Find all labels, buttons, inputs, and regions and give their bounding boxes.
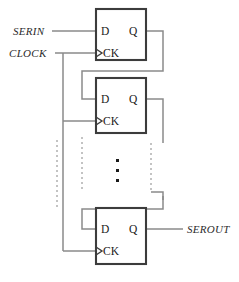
- ff2-ck-pin-label: CK: [103, 115, 120, 127]
- ff1-q-pin-label: Q: [129, 25, 138, 37]
- circuit-diagram-canvas: D Q CK D Q CK D Q CK SERIN CLOCK SEROUT: [0, 0, 239, 282]
- ff1-d-pin-label: D: [101, 25, 109, 37]
- serin-label: SERIN: [13, 25, 45, 37]
- ff1-ck-pin-label: CK: [103, 47, 120, 59]
- ff3-q-pin-label: Q: [129, 223, 138, 235]
- clock-label: CLOCK: [9, 47, 47, 59]
- ellipsis-dot-2: [116, 169, 119, 172]
- ff3-ck-pin-label: CK: [103, 245, 120, 257]
- wire-ff2q-down: [146, 99, 163, 143]
- ff2-d-pin-label: D: [101, 93, 109, 105]
- serout-label: SEROUT: [187, 223, 230, 235]
- ff2-q-pin-label: Q: [129, 93, 138, 105]
- wire-chain-join-right: [151, 192, 163, 200]
- ellipsis-dot-1: [116, 159, 119, 162]
- ellipsis-dot-3: [116, 179, 119, 182]
- ff3-d-pin-label: D: [101, 223, 109, 235]
- circuit-svg: D Q CK D Q CK D Q CK SERIN CLOCK SEROUT: [0, 0, 239, 282]
